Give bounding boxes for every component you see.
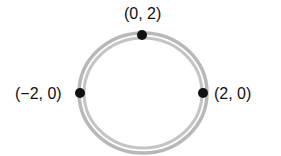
circle-diagram <box>0 0 281 156</box>
circle-ring-inner <box>84 38 202 148</box>
point-top <box>137 30 147 40</box>
circle-ring-outer <box>79 33 207 153</box>
point-left <box>75 88 85 98</box>
label-top-point: (0, 2) <box>124 6 161 22</box>
label-right-point: (2, 0) <box>214 86 251 102</box>
label-left-point: (−2, 0) <box>15 86 62 102</box>
point-right <box>198 88 208 98</box>
